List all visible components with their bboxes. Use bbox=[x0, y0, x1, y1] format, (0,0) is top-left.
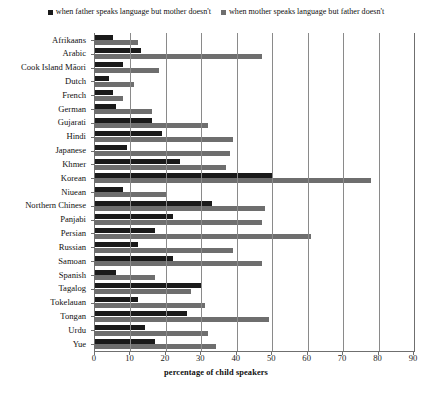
category-label: Panjabi bbox=[60, 215, 86, 224]
bar-father bbox=[95, 256, 173, 261]
x-tick-label: 70 bbox=[338, 354, 347, 363]
bar-mother bbox=[95, 137, 233, 142]
bar-father bbox=[95, 214, 173, 219]
gridline bbox=[237, 33, 238, 351]
x-tick-label: 10 bbox=[125, 354, 134, 363]
x-tick-label: 30 bbox=[196, 354, 205, 363]
bar-row bbox=[95, 185, 414, 199]
category-axis: AfrikaansArabicCook Island MāoriDutchFre… bbox=[0, 33, 90, 351]
bar-father bbox=[95, 131, 162, 136]
bar-mother bbox=[95, 248, 233, 253]
bar-father bbox=[95, 187, 123, 192]
bar-mother bbox=[95, 303, 205, 308]
gridline bbox=[379, 33, 380, 351]
bar-mother bbox=[95, 317, 269, 322]
bar-row bbox=[95, 213, 414, 227]
bar-mother bbox=[95, 234, 311, 239]
bar-father bbox=[95, 228, 155, 233]
x-tick-label: 40 bbox=[231, 354, 240, 363]
x-tick-label: 80 bbox=[373, 354, 382, 363]
bar-chart: when father speaks language but mother d… bbox=[0, 0, 432, 399]
bar-father bbox=[95, 201, 212, 206]
category-label: French bbox=[62, 91, 86, 100]
bar-row bbox=[95, 254, 414, 268]
x-tick-label: 20 bbox=[161, 354, 170, 363]
category-label: Niuean bbox=[61, 188, 86, 197]
bar-father bbox=[95, 90, 113, 95]
bar-row bbox=[95, 157, 414, 171]
bar-mother bbox=[95, 68, 159, 73]
bar-row bbox=[95, 171, 414, 185]
bar-mother bbox=[95, 109, 152, 114]
category-label: Khmer bbox=[62, 160, 86, 169]
category-label: Tokelauan bbox=[50, 298, 86, 307]
category-label: Hindi bbox=[66, 132, 86, 141]
x-tick-label: 60 bbox=[302, 354, 311, 363]
legend-swatch-mother bbox=[221, 10, 226, 15]
category-label: Northern Chinese bbox=[25, 201, 86, 210]
plot-area bbox=[94, 33, 415, 352]
legend-label-father: when father speaks language but mother d… bbox=[56, 8, 211, 16]
bar-row bbox=[95, 323, 414, 337]
bar-row bbox=[95, 33, 414, 47]
gridline bbox=[166, 33, 167, 351]
bar-row bbox=[95, 337, 414, 351]
bar-father bbox=[95, 48, 141, 53]
bar-father bbox=[95, 173, 272, 178]
category-label: Korean bbox=[61, 174, 86, 183]
bar-row bbox=[95, 116, 414, 130]
bar-father bbox=[95, 35, 113, 40]
bar-mother bbox=[95, 178, 371, 183]
category-label: Tongan bbox=[60, 312, 86, 321]
bar-father bbox=[95, 62, 123, 67]
category-label: Spanish bbox=[59, 271, 86, 280]
bar-row bbox=[95, 296, 414, 310]
bar-row bbox=[95, 199, 414, 213]
gridline bbox=[201, 33, 202, 351]
x-tick-label: 0 bbox=[92, 354, 96, 363]
bar-row bbox=[95, 240, 414, 254]
legend-swatch-father bbox=[48, 10, 53, 15]
x-axis-label: percentage of child speakers bbox=[0, 368, 432, 377]
bar-rows bbox=[95, 33, 414, 351]
bar-row bbox=[95, 74, 414, 88]
bar-mother bbox=[95, 206, 265, 211]
bar-mother bbox=[95, 331, 208, 336]
bar-row bbox=[95, 102, 414, 116]
bar-mother bbox=[95, 96, 123, 101]
chart-legend: when father speaks language but mother d… bbox=[0, 8, 432, 16]
category-label: Persian bbox=[61, 229, 86, 238]
bar-mother bbox=[95, 123, 208, 128]
gridline bbox=[308, 33, 309, 351]
category-label: Afrikaans bbox=[52, 36, 86, 45]
bar-row bbox=[95, 144, 414, 158]
bar-father bbox=[95, 159, 180, 164]
bar-father bbox=[95, 76, 109, 81]
category-label: Dutch bbox=[65, 77, 86, 86]
category-label: Urdu bbox=[68, 326, 86, 335]
bar-father bbox=[95, 339, 155, 344]
gridline bbox=[130, 33, 131, 351]
x-tick-label: 50 bbox=[267, 354, 276, 363]
bar-row bbox=[95, 88, 414, 102]
x-axis-ticks: 0102030405060708090 bbox=[94, 352, 413, 366]
bar-mother bbox=[95, 275, 155, 280]
bar-mother bbox=[95, 82, 134, 87]
bar-father bbox=[95, 311, 187, 316]
category-label: Gujarati bbox=[58, 118, 86, 127]
gridline bbox=[272, 33, 273, 351]
category-label: Russian bbox=[59, 243, 86, 252]
category-label: Samoan bbox=[58, 257, 86, 266]
category-label: German bbox=[58, 105, 86, 114]
category-label: Yue bbox=[73, 340, 86, 349]
bar-row bbox=[95, 61, 414, 75]
bar-row bbox=[95, 310, 414, 324]
bar-row bbox=[95, 227, 414, 241]
bar-mother bbox=[95, 344, 216, 349]
x-tick-label: 90 bbox=[409, 354, 418, 363]
category-label: Cook Island Māori bbox=[21, 63, 86, 72]
bar-row bbox=[95, 268, 414, 282]
category-label: Tagalog bbox=[58, 284, 86, 293]
bar-father bbox=[95, 325, 145, 330]
bar-row bbox=[95, 130, 414, 144]
